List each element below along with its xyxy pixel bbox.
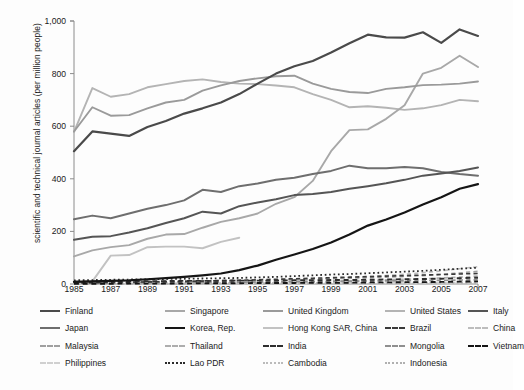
legend-item[interactable]: Hong Kong SAR, China	[263, 323, 377, 333]
legend-label: Singapore	[190, 306, 229, 316]
legend-item[interactable]: Malaysia	[40, 341, 99, 351]
legend-item[interactable]: Italy	[468, 306, 509, 316]
legend-item[interactable]: Thailand	[165, 341, 223, 351]
legend-label: Lao PDR	[190, 358, 225, 368]
legend-label: Indonesia	[410, 358, 447, 368]
legend-item[interactable]: United States	[385, 306, 461, 316]
legend-item[interactable]: Korea, Rep.	[165, 323, 235, 333]
chart-legend: FinlandSingaporeUnited KingdomUnited Sta…	[0, 302, 513, 390]
series-line	[74, 166, 478, 220]
legend-label: India	[288, 341, 306, 351]
y-tick-label: 200	[26, 226, 66, 236]
legend-swatch-icon	[263, 324, 283, 332]
y-tick-label: 800	[26, 69, 66, 79]
series-line	[74, 238, 239, 282]
legend-row: MalaysiaThailandIndiaMongoliaVietnam	[0, 337, 513, 355]
legend-row: JapanKorea, Rep.Hong Kong SAR, ChinaBraz…	[0, 320, 513, 338]
legend-item[interactable]: Cambodia	[263, 358, 327, 368]
legend-swatch-icon	[385, 324, 405, 332]
legend-swatch-icon	[385, 359, 405, 367]
legend-label: China	[493, 323, 515, 333]
legend-swatch-icon	[40, 359, 60, 367]
legend-label: Vietnam	[493, 341, 524, 351]
series-line	[74, 29, 478, 151]
x-tick-label: 2007	[458, 284, 498, 294]
legend-swatch-icon	[40, 342, 60, 350]
legend-item[interactable]: India	[263, 341, 306, 351]
legend-swatch-icon	[165, 359, 185, 367]
x-tick-label: 1987	[91, 284, 131, 294]
x-tick-label: 1997	[274, 284, 314, 294]
legend-item[interactable]: China	[468, 323, 515, 333]
legend-label: Japan	[65, 323, 88, 333]
x-tick-label: 2005	[421, 284, 461, 294]
legend-label: United States	[410, 306, 461, 316]
legend-swatch-icon	[263, 359, 283, 367]
legend-item[interactable]: Philippines	[40, 358, 106, 368]
legend-swatch-icon	[165, 307, 185, 315]
chart-canvas	[0, 0, 513, 300]
y-axis-ticks: 02004006008001,000	[26, 0, 66, 300]
legend-item[interactable]: Japan	[40, 323, 88, 333]
legend-label: Malaysia	[65, 341, 99, 351]
axes	[70, 21, 478, 288]
legend-swatch-icon	[468, 307, 488, 315]
legend-swatch-icon	[165, 324, 185, 332]
legend-label: Korea, Rep.	[190, 323, 235, 333]
x-tick-label: 2003	[385, 284, 425, 294]
legend-label: United Kingdom	[288, 306, 348, 316]
x-tick-label: 1995	[238, 284, 278, 294]
x-tick-label: 1993	[201, 284, 241, 294]
legend-item[interactable]: United Kingdom	[263, 306, 348, 316]
legend-item[interactable]: Brazil	[385, 323, 431, 333]
legend-row: PhilippinesLao PDRCambodiaIndonesia	[0, 355, 513, 373]
legend-item[interactable]: Singapore	[165, 306, 229, 316]
x-tick-label: 2001	[348, 284, 388, 294]
legend-label: Hong Kong SAR, China	[288, 323, 377, 333]
legend-item[interactable]: Finland	[40, 306, 93, 316]
x-tick-label: 1985	[54, 284, 94, 294]
legend-swatch-icon	[263, 342, 283, 350]
legend-item[interactable]: Indonesia	[385, 358, 447, 368]
legend-label: Italy	[493, 306, 509, 316]
y-tick-label: 600	[26, 121, 66, 131]
legend-swatch-icon	[385, 342, 405, 350]
y-tick-label: 400	[26, 174, 66, 184]
plot-area: scientific and technical journal article…	[0, 0, 513, 300]
series-lines	[74, 29, 478, 283]
legend-label: Philippines	[65, 358, 106, 368]
x-tick-label: 1989	[127, 284, 167, 294]
legend-swatch-icon	[165, 342, 185, 350]
legend-item[interactable]: Vietnam	[468, 341, 524, 351]
legend-swatch-icon	[263, 307, 283, 315]
legend-label: Thailand	[190, 341, 223, 351]
legend-swatch-icon	[468, 324, 488, 332]
legend-label: Brazil	[410, 323, 431, 333]
legend-swatch-icon	[40, 307, 60, 315]
legend-label: Cambodia	[288, 358, 327, 368]
legend-label: Finland	[65, 306, 93, 316]
legend-item[interactable]: Mongolia	[385, 341, 445, 351]
y-tick-label: 1,000	[26, 16, 66, 26]
series-line	[74, 79, 478, 132]
legend-row: FinlandSingaporeUnited KingdomUnited Sta…	[0, 302, 513, 320]
legend-swatch-icon	[468, 342, 488, 350]
legend-swatch-icon	[385, 307, 405, 315]
legend-item[interactable]: Lao PDR	[165, 358, 225, 368]
legend-swatch-icon	[40, 324, 60, 332]
x-tick-label: 1991	[164, 284, 204, 294]
x-axis-ticks: 1985198719891991199319951997199920012003…	[0, 284, 513, 298]
legend-label: Mongolia	[410, 341, 445, 351]
x-tick-label: 1999	[311, 284, 351, 294]
